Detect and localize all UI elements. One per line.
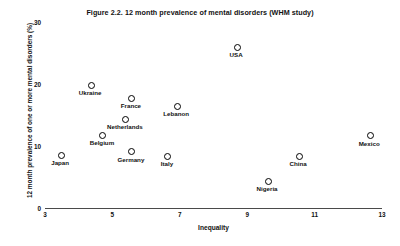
data-point-label: Japan [51,159,69,166]
chart-title: Figure 2.2. 12 month prevalence of menta… [0,8,400,17]
data-point-label: Netherlands [107,123,143,130]
data-point-marker [174,103,181,110]
data-point-label: France [121,102,141,109]
x-axis-line [45,208,382,209]
data-point-label: Italy [161,160,173,167]
data-point-label: USA [230,51,243,58]
x-tick-label: 7 [178,211,182,218]
data-point-label: Nigeria [257,185,278,192]
data-point-marker [88,82,95,89]
y-tick-label: 10 [34,143,41,150]
y-axis-ticks: 0102030 [0,0,41,246]
y-tick-label: 0 [37,205,41,212]
y-tick-label: 30 [34,19,41,26]
x-tick-label: 3 [43,211,47,218]
data-point-marker [367,132,374,139]
data-point-marker [99,132,106,139]
plot-area: JapanUkraineBelgiumGermanyNetherlandsFra… [45,22,382,208]
data-point-label: Ukraine [79,89,102,96]
data-point-marker [296,153,303,160]
data-point-label: Lebanon [163,110,189,117]
data-point-marker [128,95,135,102]
data-point-marker [58,152,65,159]
chart-figure: Figure 2.2. 12 month prevalence of menta… [0,0,400,246]
data-point-marker [122,116,129,123]
x-axis-title: Inequality [45,224,382,231]
y-axis-title: 12 month prevalence of one or more menta… [26,16,33,206]
x-tick-label: 11 [311,211,318,218]
data-point-marker [234,44,241,51]
data-point-label: China [289,160,306,167]
y-tick-label: 20 [34,81,41,88]
data-point-marker [265,178,272,185]
x-tick-label: 9 [245,211,249,218]
data-point-marker [164,153,171,160]
data-point-marker [128,148,135,155]
x-tick-label: 5 [111,211,115,218]
data-point-label: Germany [118,156,145,163]
data-point-label: Mexico [359,140,380,147]
x-tick-label: 13 [378,211,385,218]
data-point-label: Belgium [90,139,114,146]
